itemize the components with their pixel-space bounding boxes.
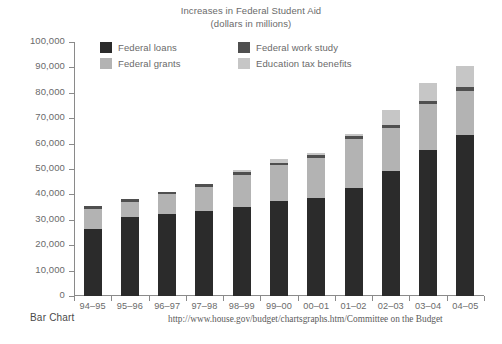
bar-segment [382, 125, 400, 128]
x-axis-tick [484, 296, 485, 301]
y-axis-tick-label: 60,000 [35, 137, 65, 148]
bar-segment [456, 91, 474, 136]
y-axis-tick-label: 90,000 [35, 60, 65, 71]
bar-group[interactable] [270, 159, 288, 296]
bar-segment [270, 165, 288, 201]
bar-segment [419, 150, 437, 296]
bar-segment [270, 163, 288, 166]
bar-segment [382, 110, 400, 125]
x-axis-label: 94–95 [74, 301, 111, 311]
x-axis-label: 96–97 [149, 301, 186, 311]
bar-segment [307, 155, 325, 158]
bar-segment [84, 209, 102, 229]
bar-segment [270, 201, 288, 296]
x-axis-label: 99–00 [260, 301, 297, 311]
x-axis-label: 01–02 [335, 301, 372, 311]
bar-segment [195, 211, 213, 296]
bar-segment [121, 202, 139, 217]
y-axis-tick-label: 0 [60, 289, 65, 300]
bar-segment [84, 206, 102, 209]
y-axis-tick-label: 80,000 [35, 86, 65, 97]
bar-segment [121, 217, 139, 296]
bar-segment [419, 104, 437, 149]
bar-segment [382, 171, 400, 296]
y-axis-tick-label: 70,000 [35, 111, 65, 122]
bar-segment [345, 139, 363, 188]
bar-segment [419, 101, 437, 104]
y-axis-tick-label: 10,000 [35, 264, 65, 275]
bar-segment [158, 194, 176, 215]
bar-segment [456, 66, 474, 87]
bar-segment [456, 135, 474, 296]
bar-segment [84, 229, 102, 296]
y-axis-tick-label: 40,000 [35, 187, 65, 198]
x-axis-label: 98–99 [223, 301, 260, 311]
bar-group[interactable] [84, 206, 102, 296]
x-axis-label: 97–98 [186, 301, 223, 311]
bar-segment [307, 198, 325, 296]
bar-segment [345, 136, 363, 139]
bar-group[interactable] [195, 184, 213, 296]
bar-segment [233, 207, 251, 296]
bar-segment [195, 187, 213, 211]
bar-group[interactable] [158, 192, 176, 296]
chart-subtitle: (dollars in millions) [0, 17, 502, 30]
x-axis-label: 95–96 [111, 301, 148, 311]
chart-title-main: Increases in Federal Student Aid [181, 5, 322, 16]
bar-segment [345, 188, 363, 296]
bar-group[interactable] [419, 83, 437, 296]
x-axis-label: 04–05 [447, 301, 484, 311]
bar-segment [270, 159, 288, 163]
bar-segment [121, 199, 139, 202]
bar-group[interactable] [121, 199, 139, 296]
chart-title: Increases in Federal Student Aid (dollar… [0, 4, 502, 30]
bar-group[interactable] [233, 170, 251, 296]
bar-segment [419, 83, 437, 101]
y-axis-tick-label: 30,000 [35, 213, 65, 224]
bar-segment [307, 158, 325, 198]
y-axis-tick-label: 100,000 [30, 35, 65, 46]
bar-segment [345, 134, 363, 136]
bar-segment [233, 172, 251, 175]
bar-segment [158, 192, 176, 194]
x-axis-label: 02–03 [372, 301, 409, 311]
plot-area: 010,00020,00030,00040,00050,00060,00070,… [74, 42, 484, 296]
bar-segment [195, 184, 213, 186]
bar-segment [233, 175, 251, 208]
footer-source-url: http://www.house.gov/budget/chartsgraphs… [168, 314, 443, 324]
x-axis-labels: 94–9595–9696–9797–9898–9999–0000–0101–02… [74, 301, 484, 315]
bar-segment [158, 214, 176, 296]
bar-series-container [74, 42, 484, 296]
bar-segment [307, 153, 325, 155]
bar-group[interactable] [456, 66, 474, 296]
y-axis-tick-label: 20,000 [35, 238, 65, 249]
x-axis-label: 03–04 [409, 301, 446, 311]
footer-chart-type-label: Bar Chart [30, 312, 75, 323]
bar-group[interactable] [307, 153, 325, 296]
bar-segment [456, 87, 474, 90]
bar-segment [233, 170, 251, 173]
bar-segment [382, 128, 400, 171]
bar-group[interactable] [382, 110, 400, 296]
y-axis-tick-label: 50,000 [35, 162, 65, 173]
bar-group[interactable] [345, 135, 363, 296]
x-axis-label: 00–01 [298, 301, 335, 311]
